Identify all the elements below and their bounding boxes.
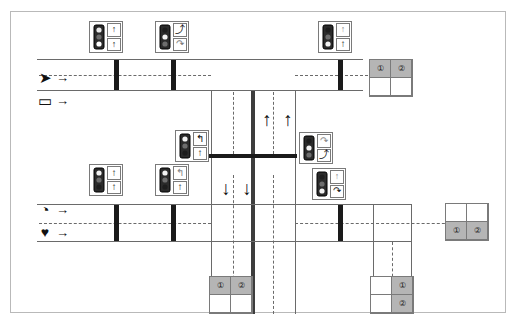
legend-heart: ♥ →: [37, 225, 69, 239]
signal-face-1: ↷: [173, 38, 187, 52]
legend-pie: ◔ →: [37, 202, 69, 216]
arrow-glyph: ↓: [221, 179, 231, 198]
lane-dash-h-south-left: [39, 223, 211, 224]
signal-face-1: ⤴: [317, 149, 331, 163]
signal-nw-outer[interactable]: ↑ ↑: [89, 21, 123, 53]
phase-box-east-bottom[interactable]: ① ②: [445, 203, 489, 241]
stop-bar-south-west-1: [114, 205, 119, 241]
traffic-light-head-icon: [301, 134, 316, 162]
signal-face-1: ↷: [330, 185, 344, 199]
road-edge-v-southleg-right: [295, 241, 296, 314]
arrow-glyph: ↑: [262, 110, 272, 129]
stop-bar-south-west-2: [171, 205, 176, 241]
arrow-glyph: ↓: [242, 179, 252, 198]
stop-bar-north-east-1: [338, 60, 343, 90]
road-edge-h-south-bot: [37, 241, 411, 242]
signal-faces: ↰ ↑: [192, 132, 207, 160]
median-bar-north: [251, 91, 255, 155]
phase-cell[interactable]: [466, 203, 488, 222]
phase-box-east-top[interactable]: ① ②: [369, 59, 413, 97]
pie-detector-icon: ◔: [37, 202, 53, 216]
chevron-detector-icon: ➤: [37, 70, 53, 84]
legend-arrow-icon: →: [56, 203, 69, 216]
signal-faces: ↑ ↑: [106, 23, 121, 51]
road-edge-v-eastblock-left: [373, 204, 374, 282]
phase-cell[interactable]: ②: [466, 221, 488, 240]
heart-detector-icon: ♥: [37, 225, 53, 239]
signal-face-1: ↑: [107, 38, 121, 52]
traffic-light-head-icon: [91, 23, 106, 51]
phase-cell[interactable]: ①: [445, 221, 467, 240]
phase-cell[interactable]: [369, 77, 391, 96]
legend-arrow-icon: →: [56, 94, 69, 107]
signal-nw-inner[interactable]: ⤴ ↷: [155, 21, 189, 53]
signal-sw-outer[interactable]: ↑ ↑: [89, 164, 123, 196]
traffic-light-head-icon: [91, 166, 106, 194]
signal-se-lower[interactable]: ↑ ↷: [312, 168, 346, 200]
signal-face-0: ↑: [336, 23, 350, 37]
arrow-sb-outer: ↓: [240, 177, 254, 199]
road-edge-v-eastblock-right: [411, 204, 412, 282]
phase-cell[interactable]: ②: [230, 276, 252, 295]
phase-cell[interactable]: ①: [209, 276, 231, 295]
lane-dash-v-east-2: [273, 175, 274, 314]
signal-face-0: ↷: [317, 134, 331, 148]
phase-cell[interactable]: [445, 203, 467, 222]
phase-cell[interactable]: [209, 294, 231, 313]
signal-face-1: ↑: [336, 38, 350, 52]
signal-face-0: ↰: [173, 166, 187, 180]
diagram-page: ↑ ↑ ↓ ↓ ➤ → ▭ → ◔ →: [0, 0, 516, 324]
legend-arrow-icon: →: [56, 226, 69, 239]
road-edge-h-south-top: [37, 204, 411, 205]
phase-box-south-center[interactable]: ① ②: [209, 276, 253, 314]
phase-cell[interactable]: [370, 276, 392, 295]
lane-dash-h-south-right: [295, 223, 455, 224]
signal-face-0: ⤴: [173, 23, 187, 37]
signal-head-svg: [93, 24, 105, 50]
signal-sw-inner[interactable]: ↰ ↑: [155, 164, 189, 196]
signal-face-0: ↰: [193, 132, 207, 146]
phase-cell[interactable]: ②: [391, 294, 413, 313]
diagram-frame: ↑ ↑ ↓ ↓ ➤ → ▭ → ◔ →: [10, 11, 506, 313]
signal-face-1: ↑: [173, 181, 187, 195]
road-edge-h-north-bot: [37, 90, 363, 91]
signal-faces: ↑ ↑: [335, 23, 350, 51]
phase-cell[interactable]: ②: [390, 59, 412, 78]
arrow-nb-inner: ↑: [260, 108, 274, 130]
arrow-nb-outer: ↑: [281, 108, 295, 130]
phase-cell[interactable]: [390, 77, 412, 96]
traffic-light-head-icon: [157, 23, 172, 51]
signal-face-0: ↑: [107, 23, 121, 37]
signal-face-0: ↑: [330, 170, 344, 184]
lane-dash-v-west: [233, 92, 234, 154]
phase-cell[interactable]: [230, 294, 252, 313]
traffic-light-head-icon: [157, 166, 172, 194]
rectangle-detector-icon: ▭: [37, 93, 53, 107]
signal-faces: ↷ ⤴: [316, 134, 331, 162]
signal-faces: ↑ ↷: [329, 170, 344, 198]
traffic-light-head-icon: [320, 23, 335, 51]
phase-cell[interactable]: ①: [391, 276, 413, 295]
traffic-light-head-icon: [177, 132, 192, 160]
signal-face-0: ↑: [107, 166, 121, 180]
signal-face-1: ↑: [107, 181, 121, 195]
arrow-sb-inner: ↓: [219, 177, 233, 199]
cross-street-bar: [209, 154, 297, 158]
phase-cell[interactable]: [370, 294, 392, 313]
stop-bar-north-west-2: [171, 60, 176, 90]
signal-faces: ⤴ ↷: [172, 23, 187, 51]
signal-faces: ↰ ↑: [172, 166, 187, 194]
legend-arrow-icon: →: [56, 71, 69, 84]
legend-rectangle: ▭ →: [37, 93, 69, 107]
signal-ne-top[interactable]: ↑ ↑: [318, 21, 352, 53]
stop-bar-north-west-1: [114, 60, 119, 90]
signal-mid-right[interactable]: ↷ ⤴: [299, 132, 333, 164]
phase-cell[interactable]: ①: [369, 59, 391, 78]
signal-face-1: ↑: [193, 147, 207, 161]
traffic-light-head-icon: [314, 170, 329, 198]
legend-chevron: ➤ →: [37, 70, 69, 84]
phase-box-south-right[interactable]: ① ②: [370, 276, 414, 314]
signal-faces: ↑ ↑: [106, 166, 121, 194]
stop-bar-south-east-1: [338, 205, 343, 241]
signal-mid-left[interactable]: ↰ ↑: [175, 130, 209, 162]
